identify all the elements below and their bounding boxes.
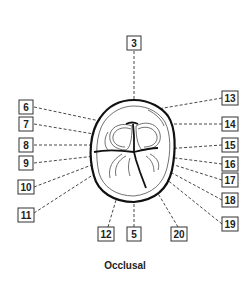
label-12: 12 [98, 227, 114, 241]
label-19-text: 19 [224, 219, 236, 230]
label-8: 8 [19, 138, 33, 152]
label-18: 18 [222, 193, 238, 207]
label-8-text: 8 [23, 140, 29, 151]
label-12-text: 12 [100, 229, 112, 240]
label-10-text: 10 [20, 182, 32, 193]
label-6: 6 [19, 100, 33, 114]
label-15: 15 [222, 138, 238, 152]
label-11: 11 [18, 208, 34, 222]
label-9: 9 [19, 156, 33, 170]
occlusal-tooth-diagram: 3 5 6 7 8 9 10 11 [0, 0, 250, 282]
label-10: 10 [18, 180, 34, 194]
tooth-crown [91, 100, 175, 202]
label-14-text: 14 [224, 119, 236, 130]
label-7: 7 [19, 117, 33, 131]
label-17-text: 17 [224, 175, 236, 186]
label-11-text: 11 [21, 210, 32, 221]
label-13-text: 13 [224, 93, 236, 104]
label-13: 13 [222, 91, 238, 105]
figure-caption: Occlusal [0, 260, 250, 271]
label-17: 17 [222, 173, 238, 187]
label-15-text: 15 [224, 140, 236, 151]
label-20: 20 [171, 227, 187, 241]
label-16-text: 16 [224, 159, 236, 170]
label-5: 5 [127, 227, 141, 241]
label-5-text: 5 [131, 229, 137, 240]
label-14: 14 [222, 117, 238, 131]
leader-13 [152, 98, 222, 110]
label-7-text: 7 [23, 119, 29, 130]
label-20-text: 20 [173, 229, 185, 240]
label-19: 19 [222, 217, 238, 231]
label-18-text: 18 [224, 195, 236, 206]
label-9-text: 9 [23, 158, 29, 169]
label-6-text: 6 [23, 102, 29, 113]
label-3-text: 3 [131, 38, 137, 49]
label-16: 16 [222, 157, 238, 171]
label-3: 3 [127, 36, 141, 50]
